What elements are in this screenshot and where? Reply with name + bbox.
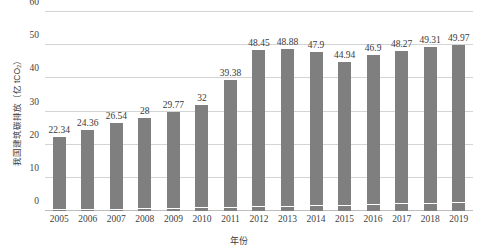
bar-segment-upper — [310, 52, 323, 205]
bar-segment-lower — [424, 203, 437, 211]
bar-segment-lower — [338, 205, 351, 211]
bar-value-label: 48.88 — [277, 37, 298, 47]
bar-value-label: 49.97 — [448, 33, 469, 43]
bar: 48.45 — [252, 50, 265, 211]
bar-value-label: 49.31 — [419, 35, 440, 45]
y-axis-tick-label: 50 — [30, 30, 40, 40]
bar-segment-upper — [281, 49, 294, 206]
y-axis-tick-label: 40 — [30, 63, 40, 73]
x-axis-tick-label: 2008 — [131, 214, 160, 224]
bar-value-label: 29.77 — [163, 100, 184, 110]
x-axis-tick-label: 2009 — [159, 214, 188, 224]
bar-segment-upper — [338, 62, 351, 205]
bar-value-label: 47.9 — [308, 40, 325, 50]
bar-segment-lower — [81, 209, 94, 211]
bar-segment-lower — [367, 204, 380, 211]
x-axis-tick-label: 2017 — [387, 214, 416, 224]
bar-segment-lower — [452, 202, 465, 211]
bar-segment-upper — [167, 112, 180, 207]
bar-series: 22.3424.3626.542829.773239.3848.4548.884… — [45, 12, 473, 211]
bar-segment-upper — [195, 105, 208, 207]
bar: 28 — [138, 118, 151, 211]
bar-slot: 39.38 — [216, 12, 245, 211]
x-axis-tick-label: 2012 — [245, 214, 274, 224]
bar-segment-upper — [424, 47, 437, 202]
bar-value-label: 46.9 — [365, 43, 382, 53]
x-axis-tick-label: 2010 — [188, 214, 217, 224]
bar-slot: 49.31 — [416, 12, 445, 211]
bar-slot: 48.45 — [245, 12, 274, 211]
bar-segment-lower — [252, 206, 265, 211]
bar-segment-lower — [395, 203, 408, 211]
y-axis-tick-label: 60 — [30, 0, 40, 7]
x-axis-tick-label: 2018 — [416, 214, 445, 224]
bar-slot: 48.88 — [273, 12, 302, 211]
bar-segment-upper — [110, 123, 123, 209]
bar-segment-lower — [167, 208, 180, 211]
bar: 29.77 — [167, 112, 180, 211]
x-axis-tick-label: 2014 — [302, 214, 331, 224]
bar: 46.9 — [367, 55, 380, 211]
x-axis-tick-label: 2015 — [330, 214, 359, 224]
x-axis-tick-label: 2011 — [216, 214, 245, 224]
bar-segment-lower — [310, 205, 323, 211]
bar-segment-upper — [138, 118, 151, 208]
bar-value-label: 39.38 — [220, 68, 241, 78]
y-axis-tick-label: 0 — [34, 196, 39, 206]
bar-slot: 48.27 — [387, 12, 416, 211]
bar-slot: 44.94 — [330, 12, 359, 211]
bar-slot: 46.9 — [359, 12, 388, 211]
x-axis-tick-label: 2007 — [102, 214, 131, 224]
bar: 49.97 — [452, 45, 465, 211]
bar: 39.38 — [224, 80, 237, 211]
bar-segment-upper — [395, 51, 408, 204]
bar-value-label: 48.27 — [391, 39, 412, 49]
x-axis-tick-label: 2019 — [444, 214, 473, 224]
plot-area: 0102030405060 22.3424.3626.542829.773239… — [45, 12, 473, 211]
x-axis-tick-label: 2006 — [74, 214, 103, 224]
x-axis-tick-label: 2016 — [359, 214, 388, 224]
bar-value-label: 22.34 — [49, 125, 70, 135]
x-axis-tick-label: 2013 — [273, 214, 302, 224]
bar-segment-lower — [53, 209, 66, 211]
bar-value-label: 32 — [197, 93, 207, 103]
bar: 48.27 — [395, 51, 408, 211]
x-axis-tick-labels: 2005200620072008200920102011201220132014… — [45, 214, 473, 224]
bar-value-label: 24.36 — [77, 118, 98, 128]
bar: 24.36 — [81, 130, 94, 211]
y-axis-title: 我国建筑碳排放（亿 tCO₂） — [10, 31, 22, 191]
bar-chart: 我国建筑碳排放（亿 tCO₂） 0102030405060 22.3424.36… — [0, 0, 477, 250]
bar-slot: 49.97 — [444, 12, 473, 211]
bar: 49.31 — [424, 47, 437, 211]
bar-slot: 28 — [131, 12, 160, 211]
bar-value-label: 26.54 — [106, 111, 127, 121]
bar-slot: 29.77 — [159, 12, 188, 211]
bar-segment-upper — [81, 130, 94, 209]
bar-slot: 32 — [188, 12, 217, 211]
bar-slot: 22.34 — [45, 12, 74, 211]
bar: 32 — [195, 105, 208, 211]
bar-segment-upper — [53, 137, 66, 209]
bar-slot: 47.9 — [302, 12, 331, 211]
bar-slot: 26.54 — [102, 12, 131, 211]
x-axis-title: 年份 — [0, 234, 477, 247]
bar-segment-upper — [452, 45, 465, 202]
bar: 26.54 — [110, 123, 123, 211]
bar: 22.34 — [53, 137, 66, 211]
bar-segment-lower — [110, 209, 123, 211]
bar-segment-upper — [367, 55, 380, 203]
x-axis-tick-label: 2005 — [45, 214, 74, 224]
y-axis-tick-label: 30 — [30, 97, 40, 107]
bar-value-label: 44.94 — [334, 50, 355, 60]
y-axis-tick-label: 20 — [30, 130, 40, 140]
bar: 47.9 — [310, 52, 323, 211]
bar-segment-lower — [195, 207, 208, 211]
bar-value-label: 48.45 — [248, 38, 269, 48]
y-axis-tick-label: 10 — [30, 163, 40, 173]
bar-segment-upper — [224, 80, 237, 207]
bar-segment-lower — [224, 207, 237, 211]
bar-segment-upper — [252, 50, 265, 206]
bar: 44.94 — [338, 62, 351, 211]
bar-segment-lower — [138, 208, 151, 211]
bar-segment-lower — [281, 206, 294, 211]
